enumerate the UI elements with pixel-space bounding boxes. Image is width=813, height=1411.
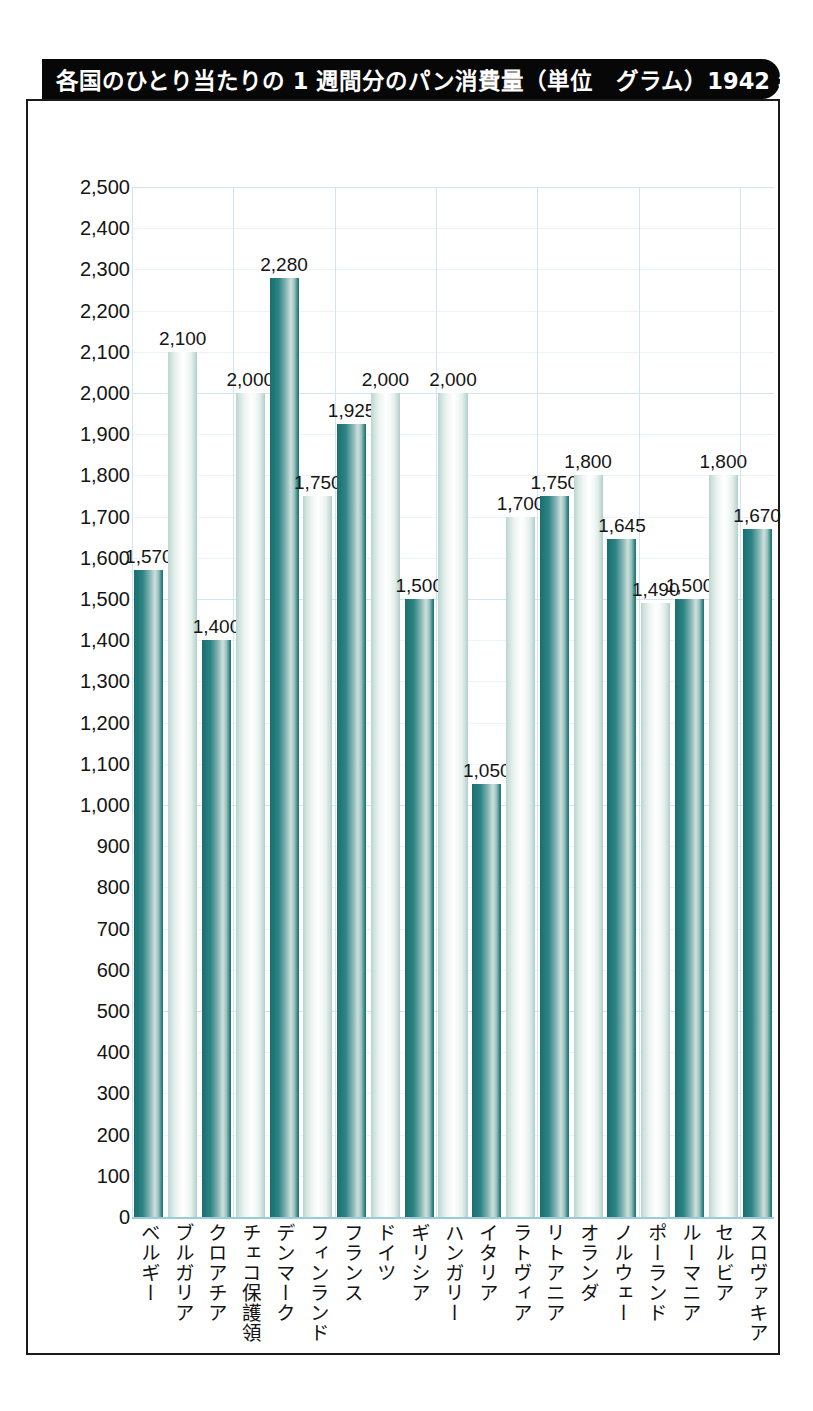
bar-slot xyxy=(202,187,231,1217)
bar[interactable] xyxy=(743,529,772,1217)
bar[interactable] xyxy=(607,539,636,1217)
x-axis-category-label: クロアチア xyxy=(206,1223,226,1323)
page-title: 各国のひとり当たりの 1 週間分のパン消費量（単位 グラム）1942 年 xyxy=(56,63,801,95)
chart-frame: 2,5002,4002,3002,2002,1002,0001,9001,800… xyxy=(26,99,780,1355)
y-axis-tick-label: 1,900 xyxy=(38,423,130,446)
x-axis-category-label: ハンガリー xyxy=(443,1223,463,1323)
x-axis-category-label: フィンランド xyxy=(308,1223,328,1343)
y-axis-tick-label: 2,000 xyxy=(38,382,130,405)
y-axis-tick-label: 1,300 xyxy=(38,670,130,693)
bar[interactable] xyxy=(472,784,501,1217)
bar[interactable] xyxy=(574,475,603,1217)
y-axis-tick-label: 1,700 xyxy=(38,505,130,528)
x-axis-category-label: ポーランド xyxy=(646,1223,666,1323)
y-axis-tick-label: 700 xyxy=(38,917,130,940)
x-axis-category-label: ルーマニア xyxy=(680,1223,700,1323)
y-axis-tick-label: 2,300 xyxy=(38,258,130,281)
bar-slot xyxy=(405,187,434,1217)
bar[interactable] xyxy=(371,393,400,1217)
bar-slot xyxy=(607,187,636,1217)
bar[interactable] xyxy=(202,640,231,1217)
bar[interactable] xyxy=(709,475,738,1217)
chart-title-bar: 各国のひとり当たりの 1 週間分のパン消費量（単位 グラム）1942 年 xyxy=(42,59,780,99)
x-axis-category-label: ブルガリア xyxy=(173,1223,193,1323)
bar-slot xyxy=(236,187,265,1217)
y-axis-tick-label: 2,100 xyxy=(38,340,130,363)
y-axis-tick-label: 1,400 xyxy=(38,629,130,652)
x-axis-category-label: ギリシア xyxy=(409,1223,429,1303)
bar[interactable] xyxy=(270,278,299,1217)
x-axis-category-label: ラトヴィア xyxy=(511,1223,531,1323)
y-axis-tick-label: 800 xyxy=(38,876,130,899)
bar-slot xyxy=(270,187,299,1217)
bar-slot xyxy=(438,187,467,1217)
bar[interactable] xyxy=(236,393,265,1217)
y-axis-tick-label: 1,800 xyxy=(38,464,130,487)
bar[interactable] xyxy=(506,517,535,1217)
x-axis-category-label: セルビア xyxy=(713,1223,733,1303)
x-axis-category-label: オランダ xyxy=(578,1223,598,1303)
scan-artifact-text: ﾟ ﾞ ﾞ ﾟ ﾞ ﾞ xyxy=(598,0,812,14)
bar[interactable] xyxy=(675,599,704,1217)
x-axis-category-label: ノルウェー xyxy=(612,1223,632,1323)
y-axis-tick-label: 900 xyxy=(38,835,130,858)
y-axis-tick-label: 300 xyxy=(38,1082,130,1105)
bar[interactable] xyxy=(540,496,569,1217)
bar-slot xyxy=(675,187,704,1217)
x-axis-category-label: チェコ保護領 xyxy=(240,1223,260,1343)
y-axis-tick-label: 0 xyxy=(38,1206,130,1229)
y-axis-tick-label: 500 xyxy=(38,1000,130,1023)
y-axis-tick-label: 200 xyxy=(38,1123,130,1146)
y-axis-tick-label: 100 xyxy=(38,1164,130,1187)
x-axis-category-label: フランス xyxy=(342,1223,362,1303)
bar-slot xyxy=(743,187,772,1217)
bar-slot xyxy=(337,187,366,1217)
y-axis-tick-label: 1,200 xyxy=(38,711,130,734)
x-axis-category-label: イタリア xyxy=(477,1223,497,1303)
plot-wrapper: 2,5002,4002,3002,2002,1002,0001,9001,800… xyxy=(28,101,782,1357)
x-axis-category-label: デンマーク xyxy=(274,1223,294,1323)
bar-slot xyxy=(303,187,332,1217)
bar[interactable] xyxy=(134,570,163,1217)
x-axis-category-label: スロヴァキア xyxy=(747,1223,767,1343)
y-axis-tick-label: 1,000 xyxy=(38,794,130,817)
x-axis-labels: ベルギーブルガリアクロアチアチェコ保護領デンマークフィンランドフランスドイツギリ… xyxy=(132,1223,774,1349)
y-axis-tick-label: 600 xyxy=(38,958,130,981)
bar-slot xyxy=(506,187,535,1217)
bar-value-label: 1,670 xyxy=(725,506,789,525)
y-axis-tick-label: 1,100 xyxy=(38,752,130,775)
y-axis: 2,5002,4002,3002,2002,1002,0001,9001,800… xyxy=(38,101,130,1357)
x-axis-category-label: ドイツ xyxy=(375,1223,395,1283)
bar[interactable] xyxy=(438,393,467,1217)
chart-figure: 各国のひとり当たりの 1 週間分のパン消費量（単位 グラム）1942 年 2,5… xyxy=(26,59,780,1355)
bar[interactable] xyxy=(641,603,670,1217)
bar-slot xyxy=(472,187,501,1217)
bar-slot xyxy=(371,187,400,1217)
x-axis-baseline xyxy=(132,1217,774,1219)
x-axis-category-label: ベルギー xyxy=(139,1223,159,1303)
bar[interactable] xyxy=(405,599,434,1217)
y-axis-tick-label: 2,200 xyxy=(38,299,130,322)
x-axis-category-label: リトアニア xyxy=(544,1223,564,1323)
bar[interactable] xyxy=(337,424,366,1217)
bar-slot xyxy=(574,187,603,1217)
bar-slot xyxy=(540,187,569,1217)
bar[interactable] xyxy=(168,352,197,1217)
bar[interactable] xyxy=(303,496,332,1217)
y-axis-tick-label: 1,500 xyxy=(38,588,130,611)
bar-slot xyxy=(641,187,670,1217)
y-axis-tick-label: 400 xyxy=(38,1041,130,1064)
y-axis-tick-label: 2,500 xyxy=(38,176,130,199)
bar-slot xyxy=(709,187,738,1217)
bars-layer: 1,5702,1001,4002,0002,2801,7501,9252,000… xyxy=(132,187,774,1217)
y-axis-tick-label: 2,400 xyxy=(38,217,130,240)
